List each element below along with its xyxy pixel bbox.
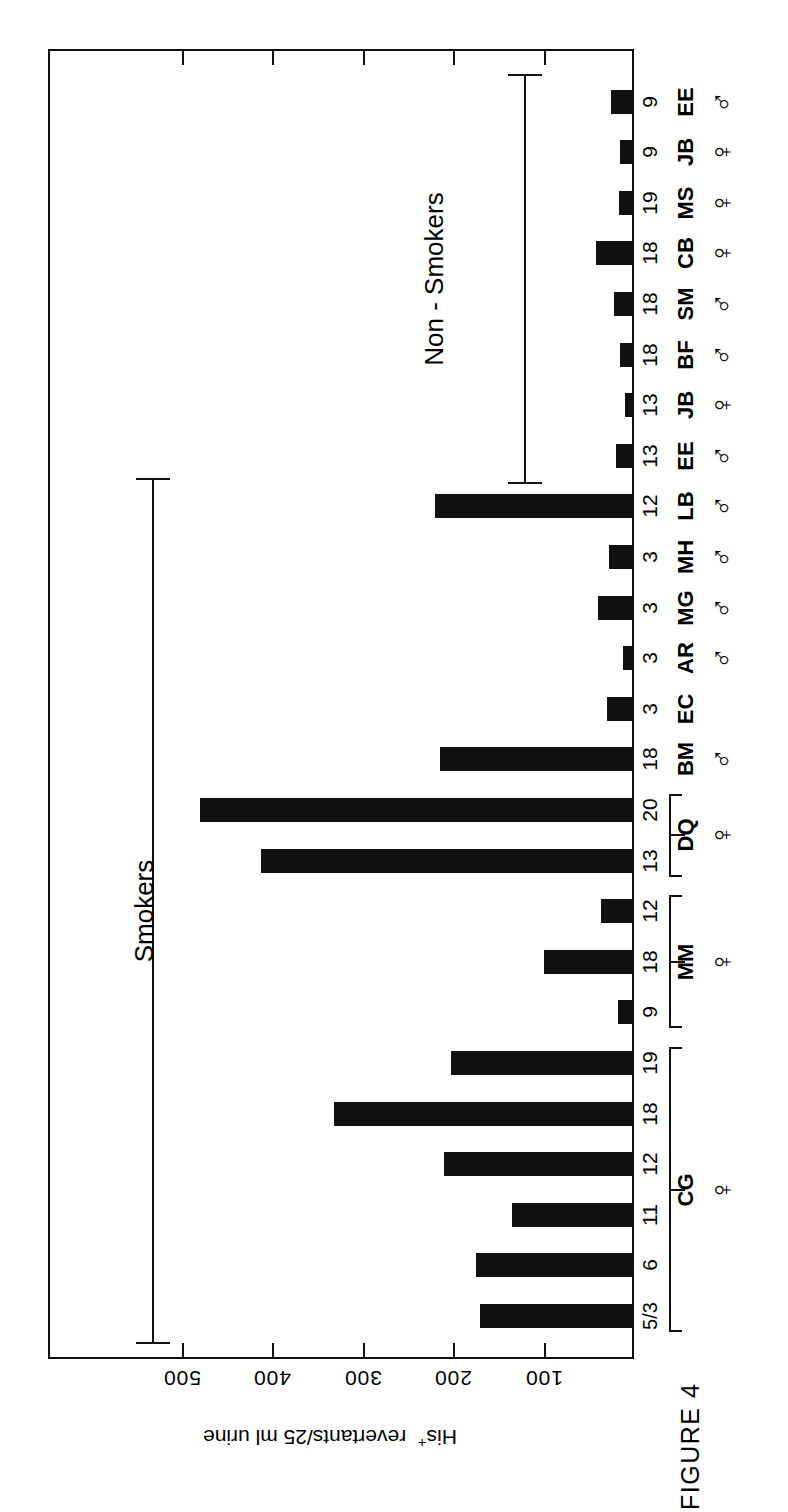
brace-arm-b [669, 1026, 682, 1028]
axis-title: His+ revertants/25 ml urine [120, 1425, 540, 1452]
sample-label-BF-18: 18 [635, 332, 665, 378]
sample-label-DQ-20: 20 [635, 787, 665, 833]
tick-label-300: 300 [333, 1366, 393, 1390]
sample-label-MS-19: 19 [635, 180, 665, 226]
sex-symbol-male: ♂ [702, 274, 742, 334]
top-tick-300 [363, 49, 365, 65]
figure-caption: FIGURE 4 [672, 1290, 708, 1510]
sample-label-LB-12: 12 [635, 483, 665, 529]
sample-label-JB-9: 9 [635, 129, 665, 175]
axis-title-text: His [427, 1426, 457, 1449]
bracket-cap-bottom [508, 482, 542, 484]
sample-label-CG-18: 18 [635, 1091, 665, 1137]
sample-label-CG-12: 12 [635, 1141, 665, 1187]
bar-AR-3 [623, 646, 634, 670]
bar-CG-12 [444, 1152, 634, 1176]
bar-CG-5/3 [480, 1304, 634, 1328]
sample-label-CG-19: 19 [635, 1040, 665, 1086]
group-label-non-smokers: Non - Smokers [416, 149, 452, 409]
bar-CG-6 [476, 1253, 634, 1277]
tick-label-500: 500 [152, 1366, 212, 1390]
bracket-non-smokers [524, 74, 526, 484]
sample-label-CG-6: 6 [635, 1242, 665, 1288]
bar-MM-9 [618, 1000, 634, 1024]
brace-arm-t [669, 895, 682, 897]
value-tick-200 [453, 1343, 455, 1358]
bar-EE-9 [611, 90, 634, 114]
sex-symbol-male: ♂ [702, 527, 742, 587]
brace-nose [671, 834, 685, 836]
bar-LB-12 [435, 494, 634, 518]
bar-MS-19 [619, 191, 634, 215]
bar-MG-3 [598, 596, 634, 620]
bar-CG-18 [334, 1102, 634, 1126]
bar-MH-3 [609, 545, 634, 569]
sex-symbol-male: ♂ [702, 729, 742, 789]
sample-label-CB-18: 18 [635, 230, 665, 276]
sex-symbol-female: ♀ [702, 932, 742, 992]
bar-CB-18 [596, 241, 634, 265]
sample-label-MM-18: 18 [635, 939, 665, 985]
sex-symbol-female: ♀ [702, 805, 742, 865]
bar-CG-11 [512, 1203, 634, 1227]
value-tick-400 [272, 1343, 274, 1358]
bar-JB-13 [625, 393, 634, 417]
sample-label-EE-9: 9 [635, 79, 665, 125]
bar-BF-18 [620, 343, 634, 367]
sample-label-DQ-13: 13 [635, 838, 665, 884]
subject-label-EE: EE [671, 67, 701, 137]
tick-label-200: 200 [423, 1366, 483, 1390]
figure-canvas: 500400300200100 His+ revertants/25 ml ur… [0, 0, 788, 1512]
sample-label-BM-18: 18 [635, 736, 665, 782]
value-tick-500 [182, 1343, 184, 1358]
value-tick-300 [363, 1343, 365, 1358]
top-tick-500 [182, 49, 184, 65]
bar-BM-18 [440, 747, 634, 771]
value-axis-line [48, 1357, 634, 1359]
bar-MM-18 [544, 950, 635, 974]
tick-label-400: 400 [242, 1366, 302, 1390]
bracket-cap-top [508, 74, 542, 76]
top-tick-200 [453, 49, 455, 65]
bar-CG-19 [451, 1051, 634, 1075]
sample-label-CG-11: 11 [635, 1192, 665, 1238]
axis-title-superscript: + [418, 1435, 427, 1452]
brace-nose [671, 1189, 685, 1191]
tick-label-100: 100 [514, 1366, 574, 1390]
bar-EC-3 [607, 697, 634, 721]
sample-label-SM-18: 18 [635, 281, 665, 327]
sample-label-EE-13: 13 [635, 433, 665, 479]
bar-SM-18 [614, 292, 634, 316]
sample-label-EC-3: 3 [635, 686, 665, 732]
bar-DQ-13 [261, 849, 634, 873]
sample-label-MG-3: 3 [635, 585, 665, 631]
top-tick-400 [272, 49, 274, 65]
top-tick-100 [544, 49, 546, 65]
brace-nose [671, 961, 685, 963]
bar-DQ-20 [200, 798, 634, 822]
brace-arm-t [669, 794, 682, 796]
axis-title-rest: revertants/25 ml urine [203, 1426, 406, 1449]
bracket-cap-top [136, 478, 170, 480]
sex-symbol-male: ♂ [702, 72, 742, 132]
bracket-cap-bottom [136, 1342, 170, 1344]
sample-label-MH-3: 3 [635, 534, 665, 580]
sample-label-MM-9: 9 [635, 989, 665, 1035]
group-label-smokers: Smokers [126, 781, 162, 1041]
sex-symbol-female: ♀ [702, 1160, 742, 1220]
brace-arm-b [669, 875, 682, 877]
bar-JB-9 [620, 140, 634, 164]
value-tick-100 [544, 1343, 546, 1358]
sample-label-CG-5/3: 5/3 [635, 1293, 665, 1339]
sample-label-MM-12: 12 [635, 888, 665, 934]
bar-MM-12 [601, 899, 634, 923]
sample-label-AR-3: 3 [635, 635, 665, 681]
brace-arm-t [669, 1047, 682, 1049]
sample-label-JB-13: 13 [635, 382, 665, 428]
bar-EE-13 [616, 444, 634, 468]
